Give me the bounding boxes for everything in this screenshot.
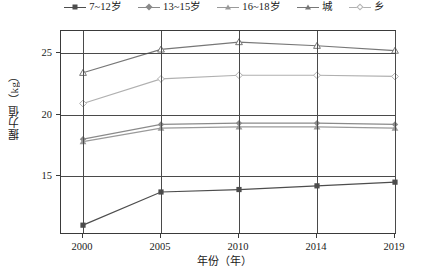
legend-line-16-18	[217, 7, 239, 8]
x-axis-tick-label: 2014	[306, 241, 327, 252]
legend-label-7-12: 7~12岁	[89, 2, 121, 13]
x-axis-tick	[160, 234, 161, 238]
legend-label-16-18: 16~18岁	[242, 2, 279, 13]
gridline-vertical	[239, 31, 240, 233]
legend-item-16-18[interactable]: 16~18岁	[217, 2, 279, 13]
x-axis-tick-label: 2019	[384, 241, 405, 252]
legend-label-cheng: 城	[322, 2, 332, 13]
diamond-marker-icon	[146, 4, 153, 11]
y-axis-tick	[56, 114, 60, 115]
gridline-vertical	[83, 31, 84, 233]
x-axis-tick-label: 2010	[228, 241, 249, 252]
x-axis-title: 年份（年）	[0, 252, 448, 268]
y-axis-tick-label: 20	[26, 108, 52, 119]
y-axis-tick-label: 25	[26, 47, 52, 58]
gridline-horizontal	[61, 115, 395, 116]
gridline-vertical	[317, 31, 318, 233]
y-axis-tick	[56, 52, 60, 53]
x-axis-tick	[238, 234, 239, 238]
x-axis-tick	[316, 234, 317, 238]
plot-area	[60, 30, 396, 234]
legend-line-cheng	[297, 7, 319, 8]
x-axis-tick	[394, 234, 395, 238]
series-svg	[61, 31, 397, 235]
legend-line-13-15	[138, 7, 160, 8]
gridline-vertical	[161, 31, 162, 233]
legend-item-xiang[interactable]: 乡	[349, 2, 384, 13]
y-axis-tick	[56, 175, 60, 176]
y-axis-tick-label: 15	[26, 170, 52, 181]
x-axis-tick	[82, 234, 83, 238]
legend-item-7-12[interactable]: 7~12岁	[64, 2, 121, 13]
gridline-horizontal	[61, 53, 395, 54]
y-axis-title: 握力值（kg）	[6, 70, 22, 140]
legend-label-13-15: 13~15岁	[163, 2, 200, 13]
triangle-marker-icon	[225, 5, 231, 10]
diamond-open-marker-icon	[356, 4, 363, 11]
legend-item-13-15[interactable]: 13~15岁	[138, 2, 200, 13]
gridline-vertical	[395, 31, 396, 233]
legend-line-7-12	[64, 7, 86, 8]
grip-strength-line-chart: 7~12岁 13~15岁 16~18岁 城	[0, 0, 448, 278]
legend-line-xiang	[349, 7, 371, 8]
x-axis-tick-label: 2005	[150, 241, 171, 252]
triangle-open-marker-icon	[305, 5, 311, 10]
legend-item-cheng[interactable]: 城	[297, 2, 332, 13]
legend-label-xiang: 乡	[374, 2, 384, 13]
x-axis-tick-label: 2000	[72, 241, 93, 252]
square-marker-icon	[73, 5, 78, 10]
chart-legend: 7~12岁 13~15岁 16~18岁 城	[0, 2, 448, 13]
gridline-horizontal	[61, 176, 395, 177]
